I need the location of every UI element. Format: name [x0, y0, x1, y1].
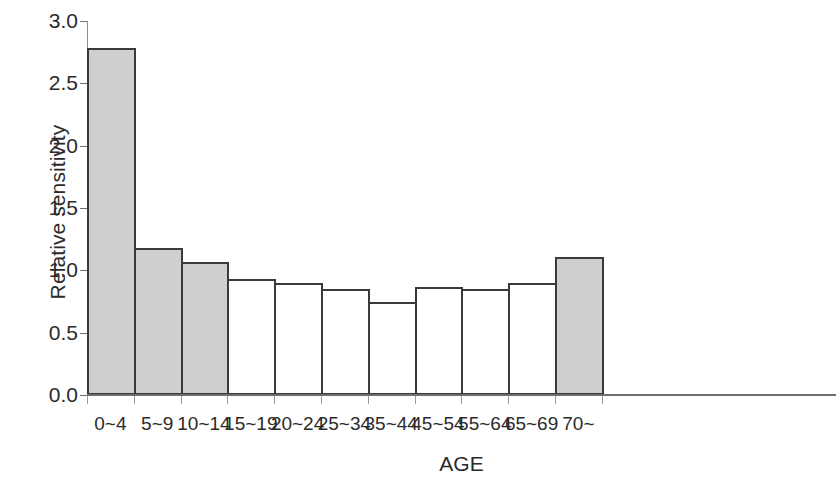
x-axis-tick-mark — [134, 396, 135, 404]
y-axis-tick-label: 1.0 — [32, 259, 78, 280]
x-axis-tick-mark — [227, 396, 228, 404]
x-axis-tick-mark — [274, 396, 275, 404]
x-axis-tick-mark — [508, 396, 509, 404]
y-axis-tick-label: 0.5 — [32, 322, 78, 343]
x-axis-tick-mark — [368, 396, 369, 404]
x-axis-tick-label: 70~ — [541, 412, 616, 436]
bar — [134, 248, 183, 395]
y-axis-tick-label: 1.5 — [32, 197, 78, 218]
x-axis-tick-mark — [321, 396, 322, 404]
x-axis-tick-marks — [87, 396, 836, 405]
bar — [274, 283, 323, 395]
bar — [461, 289, 510, 395]
y-axis-tick-label: 0.0 — [32, 384, 78, 405]
bar-chart: Relative sensitivity 0.00.51.01.52.02.53… — [0, 0, 836, 484]
x-axis-tick-mark — [555, 396, 556, 404]
bar — [555, 257, 604, 395]
x-axis-tick-labels: 0~45~910~1415~1920~2425~3435~4445~5455~6… — [87, 412, 836, 440]
x-axis-tick-mark — [461, 396, 462, 404]
x-axis-tick-mark — [602, 396, 603, 404]
y-axis-tick-labels: 0.00.51.01.52.02.53.0 — [32, 0, 78, 484]
x-axis-title: AGE — [87, 452, 836, 476]
bar — [415, 287, 464, 395]
plot-area — [87, 21, 836, 395]
y-axis-tick-label: 2.0 — [32, 135, 78, 156]
x-axis-tick-mark — [87, 396, 88, 404]
x-axis-tick-mark — [415, 396, 416, 404]
bar — [321, 289, 370, 395]
bar — [181, 262, 230, 395]
y-axis-tick-label: 2.5 — [32, 72, 78, 93]
bar — [87, 48, 136, 395]
x-axis-tick-mark — [181, 396, 182, 404]
bar — [227, 279, 276, 395]
bar — [508, 283, 557, 395]
y-axis-tick-label: 3.0 — [32, 10, 78, 31]
bar — [368, 302, 417, 396]
